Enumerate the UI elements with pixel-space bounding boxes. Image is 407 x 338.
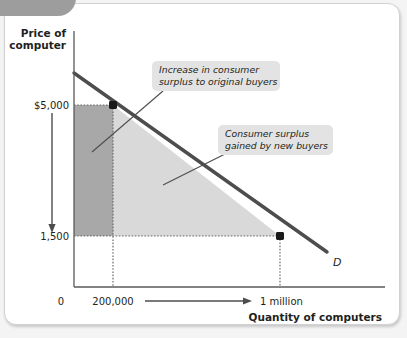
callout-original-buyers-line2: surplus to original buyers [159,76,278,87]
data-point-original-equilibrium [109,101,117,109]
y-tick-label-1500: 1,500 [40,231,69,242]
x-tick-label-200000: 200,000 [92,296,133,307]
data-point-new-equilibrium [276,232,284,240]
demand-curve-chart: Increase in consumer surplus to original… [0,0,407,338]
x-tick-label-1million: 1 million [260,296,303,307]
region-increase-original-buyers [74,105,113,236]
figure-root: Increase in consumer surplus to original… [0,0,407,338]
y-tick-label-5000: $5,000 [34,100,69,111]
callout-original-buyers-line1: Increase in consumer [159,64,260,75]
quantity-increase-arrow-head [243,298,252,305]
x-axis-title: Quantity of computers [249,311,382,323]
callout-new-buyers-line1: Consumer surplus [225,128,309,139]
y-axis-title-line1: Price of [21,27,67,39]
y-axis-title-line2: computer [9,39,67,51]
region-surplus-new-buyers [113,105,280,236]
demand-curve-label: D [333,256,341,269]
callout-new-buyers-line2: gained by new buyers [225,140,328,151]
x-tick-label-zero: 0 [58,296,64,307]
